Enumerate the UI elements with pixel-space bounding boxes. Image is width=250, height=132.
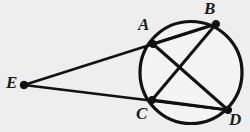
point-label-c: C: [136, 105, 147, 122]
point-label-a: A: [138, 16, 149, 33]
vertex-point-e: [20, 81, 28, 89]
point-label-e: E: [6, 74, 17, 91]
point-label-b: B: [204, 0, 215, 17]
figure-canvas: [0, 0, 250, 132]
point-label-d: D: [229, 111, 241, 128]
vertex-point-c: [148, 96, 155, 103]
geometry-diagram: A B C D E: [0, 0, 250, 132]
vertex-point-a: [149, 40, 156, 47]
vertex-point-b: [212, 20, 219, 27]
